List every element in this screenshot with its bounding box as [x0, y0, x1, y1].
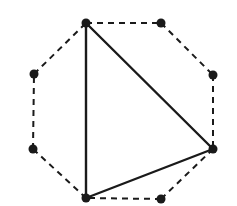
vertex-dot: [209, 71, 218, 80]
triangle-solid-edges: [86, 23, 213, 198]
octagon-dashed-edges: [33, 23, 213, 199]
triangle-edge: [86, 149, 213, 198]
octagon-edge: [161, 23, 213, 75]
octagon-edge: [34, 23, 86, 74]
vertex-dot: [157, 19, 166, 28]
vertex-dot: [82, 194, 91, 203]
vertex-dot: [82, 19, 91, 28]
octagon-edge: [33, 149, 86, 198]
vertex-dot: [157, 195, 166, 204]
vertex-dot: [30, 70, 39, 79]
vertex-dot: [29, 145, 38, 154]
vertex-dot: [209, 145, 218, 154]
octagon-edge: [86, 198, 161, 199]
octagon-edge: [161, 149, 213, 199]
vertex-dots: [29, 19, 218, 204]
octagon-edge: [33, 74, 34, 149]
octagon-triangle-diagram: [0, 0, 237, 206]
triangle-edge: [86, 23, 213, 149]
